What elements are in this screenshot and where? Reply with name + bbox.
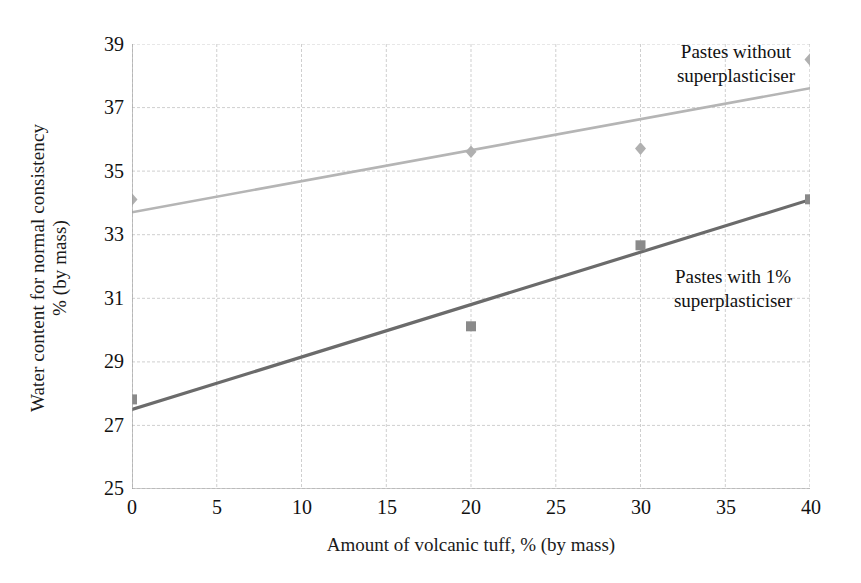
- data-point-diamond: [132, 193, 138, 206]
- x-tick-label-35: 35: [703, 496, 749, 518]
- x-tick-label-10: 10: [279, 496, 325, 518]
- x-tick-label-40: 40: [788, 496, 834, 518]
- annotation-pastes-with-1pct-superplasticiser: Pastes with 1% superplasticiser: [628, 265, 838, 313]
- y-tick-label-27: 27: [86, 415, 124, 435]
- y-tick-label-39: 39: [86, 34, 124, 54]
- x-tick-label-5: 5: [194, 496, 240, 518]
- x-axis-title: Amount of volcanic tuff, % (by mass): [132, 534, 810, 556]
- x-tick-label-20: 20: [448, 496, 494, 518]
- x-tick-label-15: 15: [364, 496, 410, 518]
- x-tick-label-0: 0: [109, 496, 155, 518]
- y-tick-label-33: 33: [86, 224, 124, 244]
- annotation-pastes-without-superplasticiser: Pastes without superplasticiser: [631, 40, 841, 88]
- data-point-square: [805, 194, 810, 204]
- y-tick-label-29: 29: [86, 351, 124, 371]
- chart-figure: Water content for normal consistency % (…: [0, 0, 861, 583]
- x-tick-label-25: 25: [533, 496, 579, 518]
- y-tick-label-25: 25: [86, 478, 124, 498]
- y-tick-label-35: 35: [86, 161, 124, 181]
- data-point-diamond: [466, 146, 477, 159]
- y-tick-label-37: 37: [86, 97, 124, 117]
- data-point-diamond: [635, 142, 646, 155]
- data-point-square: [636, 240, 646, 250]
- y-axis-title-line2: % (by mass): [49, 220, 71, 316]
- x-tick-label-30: 30: [618, 496, 664, 518]
- y-tick-label-31: 31: [86, 288, 124, 308]
- data-point-square: [466, 321, 476, 331]
- y-axis-title-line1: Water content for normal consistency: [27, 124, 49, 412]
- y-axis-title: Water content for normal consistency % (…: [27, 68, 71, 468]
- data-point-square: [132, 394, 137, 404]
